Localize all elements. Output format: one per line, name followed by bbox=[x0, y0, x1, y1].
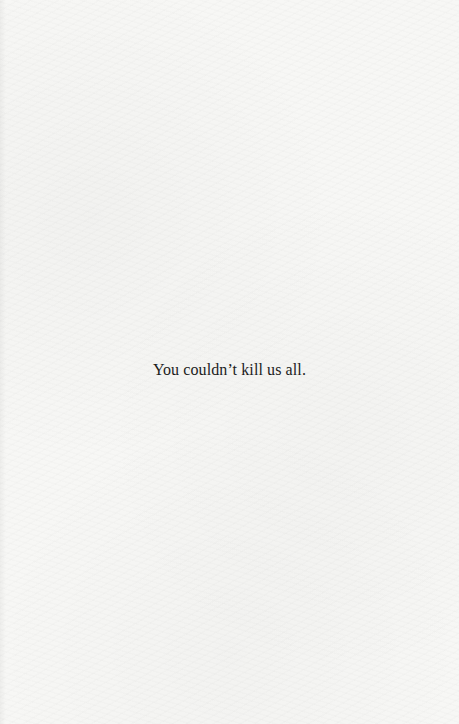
epigraph-text: You couldn’t kill us all. bbox=[0, 360, 459, 380]
book-page: You couldn’t kill us all. bbox=[0, 0, 459, 724]
